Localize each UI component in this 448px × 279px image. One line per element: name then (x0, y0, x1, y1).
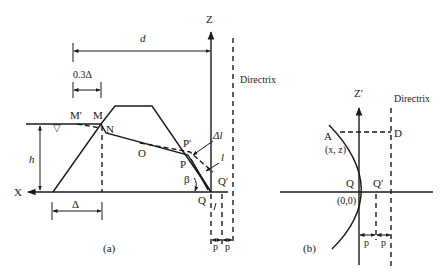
point-n: N (106, 123, 114, 135)
caption-b: (b) (303, 242, 316, 255)
point-m-prime: M' (70, 109, 82, 121)
seepage-face (191, 159, 208, 190)
b-p-label-left: p (364, 237, 369, 248)
p-label-left: p (213, 241, 218, 252)
panel-a: X Z Directrix d 0.3Δ ▽ h (14, 13, 276, 255)
p-label-right: p (225, 241, 230, 252)
d-label: d (140, 32, 146, 44)
x-axis-label: X (14, 186, 22, 198)
z-axis-label: Z (206, 13, 213, 25)
point-a: A (324, 130, 332, 142)
point-p-prime: P' (183, 137, 191, 149)
b-z-axis-label: Z' (354, 87, 363, 99)
point-q-prime: Q' (218, 175, 228, 187)
delta-l-leader (193, 141, 213, 155)
beta-arc (194, 178, 196, 191)
point-o: O (138, 147, 146, 159)
point-q: Q (198, 194, 206, 206)
phreatic-line (101, 124, 211, 192)
caption-a: (a) (103, 242, 116, 255)
03delta-label: 0.3Δ (73, 69, 93, 80)
point-d: D (394, 127, 402, 139)
point-m: M (93, 109, 103, 121)
point-q-b: Q (346, 177, 354, 189)
panel-b: Z' Directrix A (x, z) D Q Q' (0,0) p p (… (280, 87, 433, 266)
l-label: l (221, 151, 224, 163)
b-p-label-right: p (381, 237, 386, 248)
water-symbol: ▽ (53, 122, 61, 133)
parabola-dashed (140, 143, 213, 172)
b-directrix-label: Directrix (394, 93, 430, 104)
delta-l-label: Δl (212, 129, 223, 141)
l-tick (214, 203, 216, 210)
diagram-canvas: X Z Directrix d 0.3Δ ▽ h (0, 0, 448, 279)
h-label: h (29, 153, 35, 165)
origin-label: (0,0) (337, 195, 356, 207)
delta-label: Δ (72, 198, 79, 210)
point-a-coords: (x, z) (325, 144, 346, 156)
angle-beta: β (184, 173, 190, 185)
point-q-prime-b: Q' (373, 177, 383, 189)
point-p: P (180, 158, 186, 170)
directrix-label: Directrix (240, 74, 276, 85)
